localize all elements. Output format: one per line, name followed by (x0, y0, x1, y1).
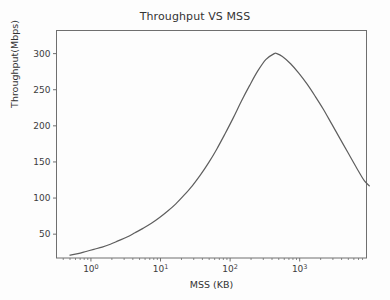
y-tick-label-150: 150 (33, 157, 50, 167)
x-tick-label-10: 101 (153, 263, 169, 275)
y-tick-label-300: 300 (33, 49, 50, 59)
x-tickmarks (91, 258, 300, 262)
throughput-curve (70, 53, 369, 255)
y-tick-label-250: 250 (33, 85, 50, 95)
axes-spines (57, 31, 367, 259)
x-tick-label-1: 100 (83, 263, 99, 275)
figure-canvas: Throughput VS MSS Throughput(Mbps) MSS (… (0, 0, 390, 300)
data-series-group (70, 53, 369, 255)
plot-area: 50100150200250300 100101102103 (0, 0, 390, 300)
x-tick-label-100: 102 (222, 263, 238, 275)
y-tick-label-100: 100 (33, 193, 50, 203)
y-tickmarks (53, 54, 57, 235)
y-tick-label-200: 200 (33, 121, 50, 131)
y-tick-labels: 50100150200250300 (33, 49, 50, 240)
x-tick-label-1000: 103 (292, 263, 308, 275)
x-tick-labels: 100101102103 (83, 263, 307, 275)
y-tick-label-50: 50 (39, 229, 51, 239)
